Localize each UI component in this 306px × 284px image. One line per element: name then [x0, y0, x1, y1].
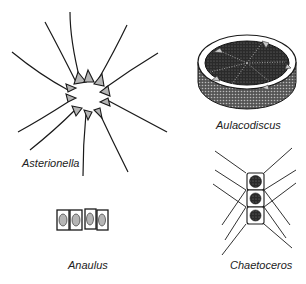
- diatom-illustration: Asterionella Aulacodiscus: [0, 0, 306, 284]
- chaetoceros-drawing: [213, 148, 296, 255]
- asterionella-label: Asterionella: [21, 157, 79, 169]
- aulacodiscus-label: Aulacodiscus: [215, 119, 281, 131]
- anaulus-label: Anaulus: [67, 259, 108, 271]
- asterionella-drawing: [12, 12, 167, 176]
- anaulus-drawing: [57, 209, 108, 230]
- chaetoceros-label: Chaetoceros: [230, 259, 293, 271]
- aulacodiscus-drawing: [198, 35, 296, 109]
